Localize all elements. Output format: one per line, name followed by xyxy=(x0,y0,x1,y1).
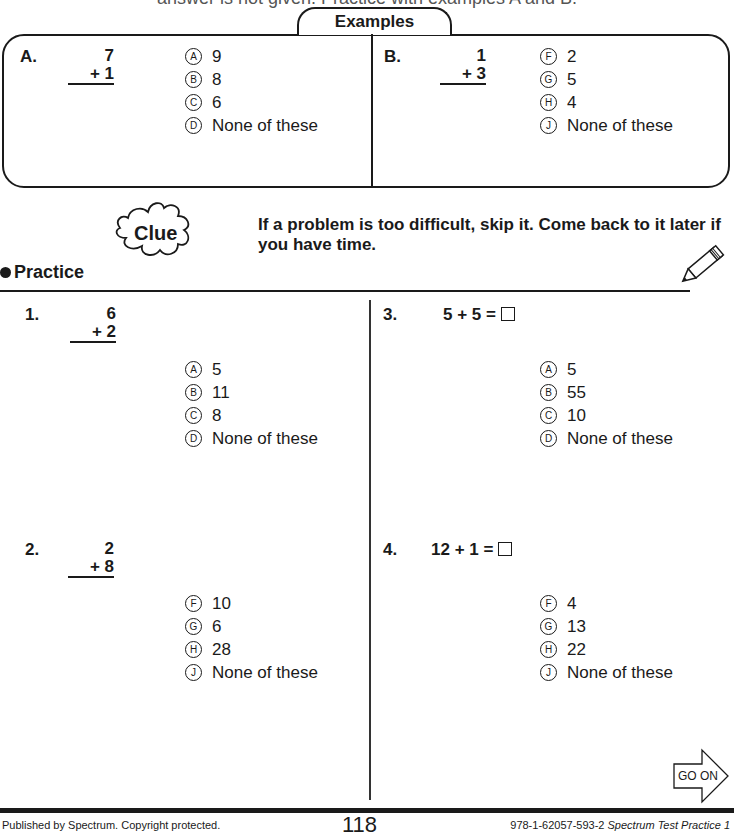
answer-option[interactable]: A5 xyxy=(185,358,318,381)
question-4-expression: 12 + 1 = xyxy=(431,540,512,560)
answer-option[interactable]: DNone of these xyxy=(540,427,673,450)
page-number: 118 xyxy=(342,812,377,838)
answer-option[interactable]: B11 xyxy=(185,381,318,404)
answer-bubble-icon[interactable]: C xyxy=(185,94,202,111)
answer-option[interactable]: H28 xyxy=(185,638,318,661)
option-text: None of these xyxy=(212,663,318,683)
answer-bubble-icon[interactable]: G xyxy=(540,618,557,635)
option-text: 11 xyxy=(212,383,230,403)
answer-option[interactable]: C8 xyxy=(185,404,318,427)
clue-label: Clue xyxy=(134,222,177,244)
q2-top: 2 xyxy=(105,539,114,558)
option-text: 2 xyxy=(567,47,576,67)
answer-bubble-icon[interactable]: D xyxy=(185,117,202,134)
option-text: 6 xyxy=(212,93,221,113)
answer-bubble-icon[interactable]: B xyxy=(540,384,557,401)
option-text: None of these xyxy=(567,663,673,683)
answer-option[interactable]: G13 xyxy=(540,615,673,638)
clue-puzzle-icon: Clue xyxy=(112,198,202,260)
option-text: 8 xyxy=(212,406,221,426)
option-text: 5 xyxy=(212,360,221,380)
q1-top: 6 xyxy=(107,304,116,323)
option-text: 22 xyxy=(567,640,586,660)
example-b-bottom: + 3 xyxy=(440,65,486,85)
answer-option[interactable]: F4 xyxy=(540,592,673,615)
answer-bubble-icon[interactable]: F xyxy=(540,48,557,65)
answer-bubble-icon[interactable]: C xyxy=(185,407,202,424)
option-text: None of these xyxy=(212,116,318,136)
footer-book-info: 978-1-62057-593-2 Spectrum Test Practice… xyxy=(510,819,730,831)
answer-bubble-icon[interactable]: J xyxy=(540,117,557,134)
clue-text: If a problem is too difficult, skip it. … xyxy=(258,215,728,255)
answer-option[interactable]: JNone of these xyxy=(540,661,673,684)
answer-bubble-icon[interactable]: B xyxy=(185,384,202,401)
option-text: 4 xyxy=(567,594,576,614)
question-2-problem: 2 + 8 xyxy=(68,540,114,578)
answer-bubble-icon[interactable]: C xyxy=(540,407,557,424)
question-1-problem: 6 + 2 xyxy=(70,305,116,343)
footer-book-title: Spectrum Test Practice 1 xyxy=(608,819,730,831)
practice-heading: Practice xyxy=(0,262,84,283)
answer-bubble-icon[interactable]: H xyxy=(540,641,557,658)
answer-option[interactable]: C6 xyxy=(185,91,318,114)
footer-copyright: Published by Spectrum. Copyright protect… xyxy=(2,819,220,831)
answer-option[interactable]: H22 xyxy=(540,638,673,661)
answer-bubble-icon[interactable]: A xyxy=(540,361,557,378)
answer-option[interactable]: A9 xyxy=(185,45,318,68)
footer-isbn: 978-1-62057-593-2 xyxy=(510,819,604,831)
q3-expression-text: 5 + 5 = xyxy=(443,305,496,324)
answer-option[interactable]: B55 xyxy=(540,381,673,404)
answer-option[interactable]: DNone of these xyxy=(185,427,318,450)
answer-bubble-icon[interactable]: F xyxy=(185,595,202,612)
answer-blank-box xyxy=(501,307,515,321)
answer-bubble-icon[interactable]: H xyxy=(185,641,202,658)
clue-line-1: If a problem is too difficult, skip it. … xyxy=(258,215,728,235)
answer-option[interactable]: DNone of these xyxy=(185,114,318,137)
pencil-icon xyxy=(676,238,732,298)
example-a-label: A. xyxy=(20,47,37,67)
answer-option[interactable]: F2 xyxy=(540,45,673,68)
answer-option[interactable]: G5 xyxy=(540,68,673,91)
option-text: 8 xyxy=(212,70,221,90)
question-2-label: 2. xyxy=(25,540,39,560)
answer-option[interactable]: JNone of these xyxy=(540,114,673,137)
answer-bubble-icon[interactable]: D xyxy=(540,430,557,447)
q2-bottom: + 8 xyxy=(68,558,114,578)
answer-bubble-icon[interactable]: B xyxy=(185,71,202,88)
practice-rule xyxy=(0,290,690,292)
option-text: 55 xyxy=(567,383,586,403)
example-a-options: A9 B8 C6 DNone of these xyxy=(185,45,318,137)
answer-option[interactable]: C10 xyxy=(540,404,673,427)
answer-bubble-icon[interactable]: F xyxy=(540,595,557,612)
example-a-bottom: + 1 xyxy=(68,65,114,85)
answer-option[interactable]: B8 xyxy=(185,68,318,91)
examples-divider xyxy=(371,34,373,188)
option-text: 5 xyxy=(567,70,576,90)
question-1-label: 1. xyxy=(25,305,39,325)
answer-bubble-icon[interactable]: A xyxy=(185,361,202,378)
example-b-label: B. xyxy=(384,47,401,67)
question-2-options: F10 G6 H28 JNone of these xyxy=(185,592,318,684)
answer-option[interactable]: H4 xyxy=(540,91,673,114)
answer-bubble-icon[interactable]: G xyxy=(540,71,557,88)
q4-expression-text: 12 + 1 = xyxy=(431,540,493,559)
answer-option[interactable]: G6 xyxy=(185,615,318,638)
answer-bubble-icon[interactable]: A xyxy=(185,48,202,65)
answer-bubble-icon[interactable]: J xyxy=(185,664,202,681)
option-text: 5 xyxy=(567,360,576,380)
answer-option[interactable]: F10 xyxy=(185,592,318,615)
example-a-top: 7 xyxy=(105,46,114,65)
option-text: None of these xyxy=(212,429,318,449)
option-text: 28 xyxy=(212,640,231,660)
answer-bubble-icon[interactable]: J xyxy=(540,664,557,681)
column-divider xyxy=(369,300,371,800)
answer-bubble-icon[interactable]: H xyxy=(540,94,557,111)
option-text: None of these xyxy=(567,116,673,136)
option-text: 10 xyxy=(212,594,231,614)
answer-bubble-icon[interactable]: D xyxy=(185,430,202,447)
bullet-icon xyxy=(0,267,11,278)
answer-option[interactable]: JNone of these xyxy=(185,661,318,684)
answer-option[interactable]: A5 xyxy=(540,358,673,381)
example-b-options: F2 G5 H4 JNone of these xyxy=(540,45,673,137)
answer-bubble-icon[interactable]: G xyxy=(185,618,202,635)
